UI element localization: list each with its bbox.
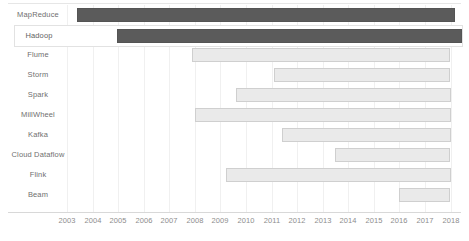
x-tick-2014: 2014	[339, 216, 356, 225]
x-tick-2015: 2015	[365, 216, 382, 225]
bar-beam[interactable]	[399, 188, 450, 202]
chart-row[interactable]: Spark	[0, 85, 469, 105]
x-tick-2016: 2016	[390, 216, 407, 225]
bar-hadoop[interactable]	[117, 29, 462, 43]
chart-row[interactable]: Kafka	[0, 125, 469, 145]
row-label-flink: Flink	[0, 165, 76, 185]
bar-millwheel[interactable]	[195, 108, 451, 122]
row-label-cloud-dataflow: Cloud Dataflow	[0, 145, 76, 165]
row-label-mapreduce: MapReduce	[0, 5, 76, 25]
x-tick-2012: 2012	[288, 216, 305, 225]
gantt-chart: MapReduceHadoopFlumeStormSparkMillWheelK…	[0, 0, 469, 241]
chart-row[interactable]: MapReduce	[0, 5, 469, 25]
bar-flink[interactable]	[226, 168, 451, 182]
chart-row[interactable]: Cloud Dataflow	[0, 145, 469, 165]
x-tick-2008: 2008	[186, 216, 203, 225]
bar-kafka[interactable]	[282, 128, 451, 142]
row-label-millwheel: MillWheel	[0, 105, 76, 125]
row-label-beam: Beam	[0, 185, 76, 205]
x-tick-2010: 2010	[237, 216, 254, 225]
row-label-storm: Storm	[0, 65, 76, 85]
bar-mapreduce[interactable]	[77, 8, 455, 22]
x-tick-2013: 2013	[314, 216, 331, 225]
row-label-spark: Spark	[0, 85, 76, 105]
chart-row[interactable]: Storm	[0, 65, 469, 85]
axis-top-rule	[8, 3, 461, 4]
bar-spark[interactable]	[236, 88, 451, 102]
x-tick-2017: 2017	[416, 216, 433, 225]
x-tick-2007: 2007	[160, 216, 177, 225]
row-label-hadoop: Hadoop	[1, 26, 77, 46]
x-axis-tick-labels: 2003200420052006200720082009201020112012…	[0, 216, 469, 230]
chart-row[interactable]: Hadoop	[14, 25, 463, 47]
chart-row[interactable]: Beam	[0, 185, 469, 205]
x-tick-2018: 2018	[442, 216, 459, 225]
row-label-kafka: Kafka	[0, 125, 76, 145]
x-tick-2005: 2005	[109, 216, 126, 225]
row-label-flume: Flume	[0, 45, 76, 65]
axis-baseline	[8, 212, 461, 213]
x-tick-2006: 2006	[135, 216, 152, 225]
x-tick-2003: 2003	[58, 216, 75, 225]
x-tick-2009: 2009	[211, 216, 228, 225]
chart-row[interactable]: MillWheel	[0, 105, 469, 125]
plot-area: MapReduceHadoopFlumeStormSparkMillWheelK…	[0, 0, 469, 213]
chart-row[interactable]: Flink	[0, 165, 469, 185]
chart-row[interactable]: Flume	[0, 45, 469, 65]
bar-cloud-dataflow[interactable]	[335, 148, 450, 162]
x-tick-2011: 2011	[264, 216, 281, 225]
x-tick-2004: 2004	[84, 216, 101, 225]
bar-flume[interactable]	[192, 48, 450, 62]
bar-storm[interactable]	[274, 68, 450, 82]
